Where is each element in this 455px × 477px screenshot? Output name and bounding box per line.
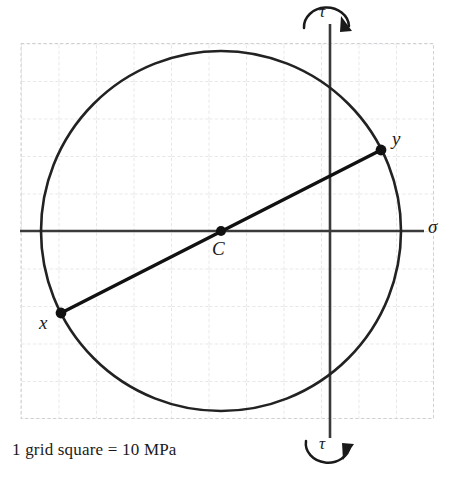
scale-caption: 1 grid square = 10 MPa [12, 440, 177, 460]
point-label-y: y [392, 128, 400, 150]
point-marker-center [216, 226, 226, 236]
point-marker-x [56, 308, 67, 319]
tau-bottom-rotation-arrow-icon [306, 441, 354, 463]
tau-axis-label-bottom: τ [319, 434, 325, 454]
mohr-circle-figure: σ τ τ x y C 1 grid square = 10 MPa [0, 0, 455, 477]
point-marker-y [376, 145, 387, 156]
point-label-center: C [212, 238, 225, 260]
mohr-circle-canvas [0, 0, 455, 477]
sigma-axis-label: σ [428, 216, 437, 238]
tau-axis-label-top: τ [319, 2, 325, 22]
point-label-x: x [39, 312, 47, 334]
tau-top-rotation-arrow-icon [304, 8, 352, 32]
